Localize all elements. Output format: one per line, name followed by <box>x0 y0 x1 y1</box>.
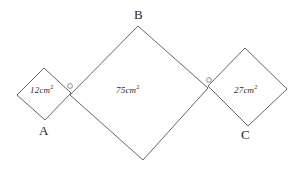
area-label-left-exponent: 2 <box>50 84 53 90</box>
area-label-right-square: 27cm2 <box>234 86 258 95</box>
area-label-right-exponent: 2 <box>254 84 257 90</box>
vertex-label-c: C <box>241 128 250 141</box>
vertex-label-a: A <box>39 124 48 137</box>
area-label-middle-square: 75cm2 <box>116 86 140 95</box>
geometry-figure: 12cm2 75cm2 27cm2 A B C <box>0 0 301 170</box>
intersection-angle-mark-right-icon <box>207 78 212 83</box>
intersection-angle-mark-left-icon <box>68 84 73 89</box>
area-label-middle-exponent: 2 <box>136 84 139 90</box>
vertex-label-b: B <box>134 8 143 21</box>
area-label-left-value: 12cm <box>30 85 50 95</box>
area-label-middle-value: 75cm <box>116 85 136 95</box>
area-label-right-value: 27cm <box>234 85 254 95</box>
area-label-left-square: 12cm2 <box>30 86 54 95</box>
